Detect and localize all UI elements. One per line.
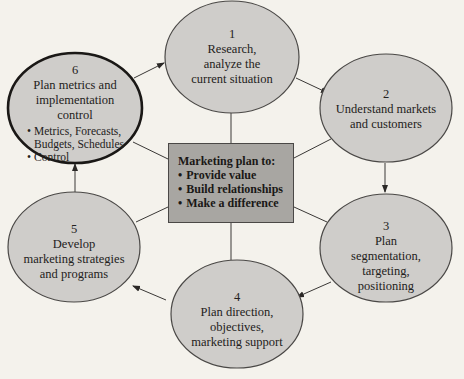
bullet-icon: • — [178, 168, 182, 182]
step-text-line: and programs — [10, 267, 138, 282]
step-text-line: objectives, — [175, 320, 299, 335]
step-text-line: marketing support — [175, 335, 299, 350]
arrow-4-to-5 — [133, 286, 166, 300]
spoke-to-step-3 — [294, 207, 327, 222]
step-text-line: current situation — [172, 72, 292, 87]
center-bullet-item: •Provide value — [178, 168, 293, 182]
center-bullet-list: •Provide value •Build relationships •Mak… — [178, 168, 293, 210]
bullet-icon: • — [27, 151, 31, 163]
bullet-icon: • — [27, 125, 31, 137]
step-text-line: marketing strategies — [10, 252, 138, 267]
step-5-label: 5 Develop marketing strategies and progr… — [10, 222, 138, 282]
arrow-6-to-1 — [134, 63, 164, 78]
step-text-line: Develop — [10, 237, 138, 252]
step-text-line: Plan — [326, 234, 446, 249]
step-text-line: Research, — [172, 42, 292, 57]
bullet-item: •Control — [27, 151, 136, 164]
step-2-label: 2 Understand markets and customers — [321, 87, 451, 132]
step-text-line: implementation — [14, 93, 136, 108]
bullet-icon: • — [178, 182, 182, 196]
step-text-line: positioning — [326, 279, 446, 294]
step-text-line: Understand markets — [321, 102, 451, 117]
step-text-line: segmentation, — [326, 249, 446, 264]
center-bullet-item: •Build relationships — [178, 182, 293, 196]
step-text-line: analyze the — [172, 57, 292, 72]
step-number: 5 — [10, 222, 138, 237]
step-6-bullet-list: •Metrics, Forecasts, Budgets, Schedules … — [27, 125, 136, 164]
step-number: 2 — [321, 87, 451, 102]
step-6-label: 6 Plan metrics and implementation contro… — [14, 63, 136, 164]
step-number: 6 — [14, 63, 136, 78]
step-text-line: Plan metrics and — [14, 78, 136, 93]
bullet-icon: • — [178, 196, 182, 210]
marketing-plan-cycle-diagram: 1 Research, analyze the current situatio… — [0, 0, 464, 379]
center-bullet-item: •Make a difference — [178, 196, 293, 210]
center-marketing-plan-box: Marketing plan to: •Provide value •Build… — [168, 143, 294, 223]
bullet-item: •Metrics, Forecasts, — [27, 125, 136, 138]
spoke-to-step-6 — [133, 142, 168, 159]
step-3-label: 3 Plan segmentation, targeting, position… — [326, 219, 446, 294]
spoke-to-step-5 — [136, 207, 168, 222]
step-number: 1 — [172, 27, 292, 42]
step-text-line: control — [14, 108, 136, 123]
step-1-label: 1 Research, analyze the current situatio… — [172, 27, 292, 87]
spoke-to-step-2 — [294, 139, 331, 158]
step-number: 4 — [175, 290, 299, 305]
step-text-line: targeting, — [326, 264, 446, 279]
step-number: 3 — [326, 219, 446, 234]
step-text-line: and customers — [321, 117, 451, 132]
step-text-line: Plan direction, — [175, 305, 299, 320]
center-title: Marketing plan to: — [178, 154, 293, 168]
bullet-item-continuation: Budgets, Schedules — [27, 138, 136, 151]
step-4-label: 4 Plan direction, objectives, marketing … — [175, 290, 299, 350]
